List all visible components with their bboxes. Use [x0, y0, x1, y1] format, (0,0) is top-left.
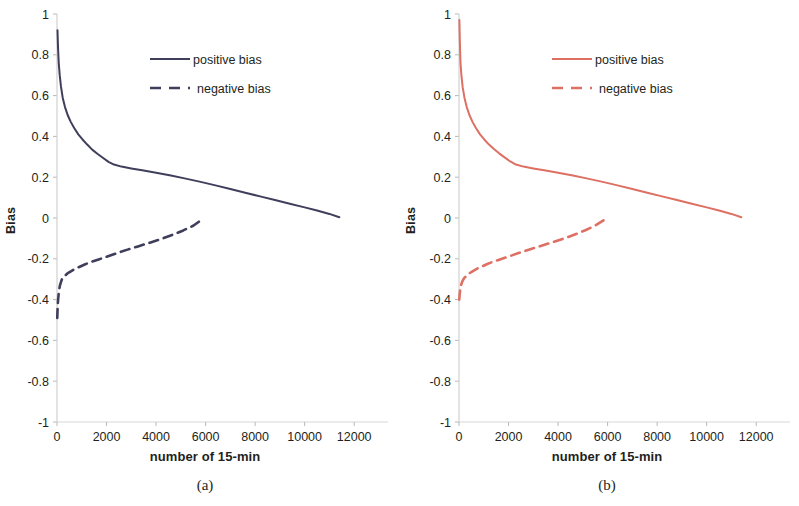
y-axis-label-b: Bias	[402, 185, 420, 255]
y-tick-label: 0.2	[434, 171, 451, 185]
y-tick-label: -0.6	[27, 334, 49, 348]
x-tick-label: 2000	[495, 430, 523, 444]
x-tick-label: 8000	[643, 430, 671, 444]
x-tick-label: 12000	[739, 430, 774, 444]
legend-label-negative-bias: negative bias	[197, 82, 271, 96]
y-tick-label: 0.2	[32, 171, 49, 185]
x-tick-label: 10000	[287, 430, 322, 444]
y-tick-label: 0.8	[32, 48, 49, 62]
x-tick-label: 6000	[594, 430, 622, 444]
y-tick-label: -0.8	[27, 375, 49, 389]
y-tick-label: 0.6	[32, 89, 49, 103]
y-tick-label: -0.8	[429, 375, 451, 389]
x-tick-label: 10000	[689, 430, 724, 444]
x-tick-label: 6000	[192, 430, 220, 444]
x-tick-label: 2000	[93, 430, 121, 444]
y-tick-label: -0.2	[27, 252, 49, 266]
y-tick-label: 0.8	[434, 48, 451, 62]
plot-area-a: -1-0.8-0.6-0.4-0.200.20.40.60.8102000400…	[22, 4, 392, 449]
panel-b: Bias -1-0.8-0.6-0.4-0.200.20.40.60.81020…	[400, 0, 799, 506]
legend: positive biasnegative bias	[150, 53, 271, 96]
y-tick-label: 0.4	[434, 130, 451, 144]
plot-area-b: -1-0.8-0.6-0.4-0.200.20.40.60.8102000400…	[424, 4, 794, 449]
y-tick-label: -1	[440, 416, 451, 430]
y-tick-label: 0.6	[434, 89, 451, 103]
y-tick-label: 1	[42, 8, 49, 22]
x-axis-label-a: number of 15-min	[60, 449, 350, 464]
legend-label-positive-bias: positive bias	[193, 53, 262, 67]
legend-label-positive-bias: positive bias	[595, 53, 664, 67]
y-tick-label: -0.6	[429, 334, 451, 348]
y-axis-label-a: Bias	[2, 185, 20, 255]
y-tick-label: -0.4	[429, 293, 451, 307]
x-tick-label: 8000	[241, 430, 269, 444]
panel-a: Bias -1-0.8-0.6-0.4-0.200.20.40.60.81020…	[0, 0, 399, 506]
figure-two-panel-bias-plots: Bias -1-0.8-0.6-0.4-0.200.20.40.60.81020…	[0, 0, 799, 506]
x-tick-label: 12000	[337, 430, 372, 444]
y-tick-label: -1	[38, 416, 49, 430]
x-tick-label: 4000	[544, 430, 572, 444]
y-tick-label: 0.4	[32, 130, 49, 144]
x-tick-label: 0	[54, 430, 61, 444]
x-axis-label-b: number of 15-min	[462, 449, 752, 464]
x-tick-label: 4000	[142, 430, 170, 444]
series-line-negative-bias	[57, 220, 200, 318]
y-tick-label: 0	[444, 212, 451, 226]
panel-caption-b: (b)	[462, 477, 752, 494]
series-line-positive-bias	[459, 20, 741, 217]
x-tick-label: 0	[456, 430, 463, 444]
legend: positive biasnegative bias	[552, 53, 673, 96]
chart-canvas-b: -1-0.8-0.6-0.4-0.200.20.40.60.8102000400…	[424, 4, 794, 449]
legend-label-negative-bias: negative bias	[599, 82, 673, 96]
y-tick-label: 0	[42, 212, 49, 226]
y-tick-label: -0.2	[429, 252, 451, 266]
panel-caption-a: (a)	[60, 477, 350, 494]
series-line-negative-bias	[459, 220, 604, 299]
y-tick-label: -0.4	[27, 293, 49, 307]
chart-canvas-a: -1-0.8-0.6-0.4-0.200.20.40.60.8102000400…	[22, 4, 392, 449]
y-tick-label: 1	[444, 8, 451, 22]
